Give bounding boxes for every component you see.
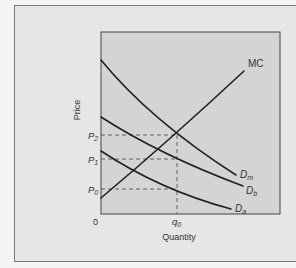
p1-label: P1 (88, 154, 98, 166)
p0-label: P0 (88, 184, 98, 196)
p2-label: P2 (88, 130, 98, 142)
mc-label: MC (248, 58, 264, 69)
y-axis-title: Price (72, 100, 82, 121)
x-axis-title: Quantity (162, 232, 196, 242)
economics-diagram: MC Dm Db Da P2 P1 P0 0 q0 Quantity Price (0, 0, 296, 268)
q0-label: q0 (172, 216, 181, 228)
origin-label: 0 (93, 217, 98, 227)
